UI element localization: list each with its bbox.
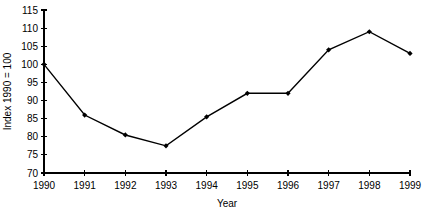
x-tick-label: 1996: [277, 180, 300, 191]
y-axis-tick-labels: 707580859095100105110115: [21, 5, 38, 179]
y-tick-label: 80: [27, 131, 39, 142]
data-point-marker: [123, 132, 128, 137]
x-tick-label: 1995: [236, 180, 259, 191]
y-tick-label: 105: [21, 41, 38, 52]
y-tick-label: 70: [27, 168, 39, 179]
y-tick-label: 115: [22, 5, 38, 16]
x-tick-label: 1990: [33, 180, 56, 191]
y-tick-label: 110: [22, 23, 38, 34]
x-tick-label: 1992: [114, 180, 137, 191]
x-tick-label: 1998: [358, 180, 381, 191]
line-chart: 707580859095100105110115 199019911992199…: [0, 0, 422, 213]
x-tick-label: 1993: [155, 180, 178, 191]
chart-canvas: 707580859095100105110115 199019911992199…: [0, 0, 422, 213]
y-tick-label: 100: [21, 59, 38, 70]
series-markers-index: [41, 29, 412, 148]
y-tick-label: 95: [27, 77, 39, 88]
x-tick-label: 1999: [399, 180, 422, 191]
x-tick-label: 1991: [74, 180, 97, 191]
data-point-marker: [407, 51, 412, 56]
y-axis-title: Index 1990 = 100: [2, 52, 13, 130]
x-tick-label: 1997: [318, 180, 341, 191]
x-axis-title: Year: [217, 198, 238, 209]
y-tick-label: 85: [27, 113, 39, 124]
x-axis-tick-labels: 1990199119921993199419951996199719981999: [33, 180, 422, 191]
series-line-index: [44, 32, 410, 146]
y-tick-label: 75: [27, 149, 39, 160]
x-tick-label: 1994: [196, 180, 219, 191]
y-tick-label: 90: [27, 95, 39, 106]
data-point-marker: [367, 29, 372, 34]
